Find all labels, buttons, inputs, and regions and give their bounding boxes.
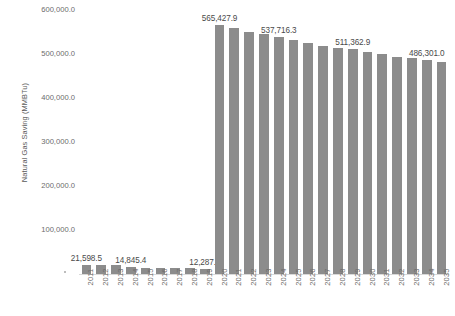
x-slot: 2020 (212, 276, 227, 316)
bar-slot (168, 10, 183, 274)
bar-slot (183, 10, 198, 274)
bar[interactable] (303, 43, 313, 274)
bar-slot (138, 10, 153, 274)
x-slot: 2012 (94, 276, 109, 316)
bar-slot (153, 10, 168, 274)
bar-series: 21,598.514,845.412,287.3565,427.9537,716… (79, 10, 449, 274)
x-slot: 2024 (271, 276, 286, 316)
x-slot: 2017 (168, 276, 183, 316)
x-slot: 2018 (183, 276, 198, 316)
bar-chart: Natural Gas Saving (MMBTu) 600,000.0500,… (0, 0, 455, 316)
bar[interactable] (318, 46, 328, 274)
bar[interactable] (259, 34, 269, 274)
x-slot: 2025 (286, 276, 301, 316)
bar-slot (257, 10, 272, 274)
bar[interactable] (348, 49, 358, 274)
y-tick-label: 600,000.0 (15, 6, 75, 14)
bar-slot (109, 10, 124, 274)
bar-slot (434, 10, 449, 274)
bar[interactable] (407, 58, 417, 274)
x-slot: 2023 (257, 276, 272, 316)
bar-slot: 12,287.3 (197, 10, 212, 274)
x-slot: 2019 (197, 276, 212, 316)
bar-slot (94, 10, 109, 274)
y-tick-label: 500,000.0 (15, 50, 75, 58)
y-tick-label: 300,000.0 (15, 138, 75, 146)
bar[interactable] (333, 48, 343, 274)
bar-slot: 14,845.4 (123, 10, 138, 274)
x-slot: 2015 (138, 276, 153, 316)
x-slot: 2028 (331, 276, 346, 316)
x-axis-tick-labels: 2011201220132014201520162017201820192020… (79, 276, 449, 316)
y-axis-tick-labels: 600,000.0500,000.0400,000.0300,000.0200,… (20, 0, 75, 316)
bar[interactable] (229, 28, 239, 274)
bar-slot: 21,598.5 (79, 10, 94, 274)
bar[interactable] (437, 62, 447, 274)
x-slot: 2031 (375, 276, 390, 316)
bar[interactable] (289, 40, 299, 274)
bar[interactable] (422, 60, 432, 274)
y-tick-label: 200,000.0 (15, 182, 75, 190)
bar-slot (301, 10, 316, 274)
y-tick-label: 400,000.0 (15, 94, 75, 102)
bar-slot (375, 10, 390, 274)
bar-slot: 486,301.0 (419, 10, 434, 274)
x-slot: 2026 (301, 276, 316, 316)
bar[interactable] (274, 37, 284, 274)
x-tick-label: 2035 (442, 268, 451, 286)
x-slot: 2022 (242, 276, 257, 316)
bar[interactable] (244, 32, 254, 274)
x-slot: 2021 (227, 276, 242, 316)
bar-slot (331, 10, 346, 274)
bar-slot (360, 10, 375, 274)
bar-slot (242, 10, 257, 274)
bar-slot (390, 10, 405, 274)
y-tick-label: 100,000.0 (15, 226, 75, 234)
x-slot: 2029 (345, 276, 360, 316)
bar-slot: 565,427.9 (212, 10, 227, 274)
x-slot: 2030 (360, 276, 375, 316)
bar[interactable] (363, 52, 373, 274)
x-slot: 2016 (153, 276, 168, 316)
x-slot: 2034 (419, 276, 434, 316)
bar[interactable] (392, 57, 402, 274)
x-slot: 2014 (123, 276, 138, 316)
x-slot: 2033 (405, 276, 420, 316)
plot-area: 21,598.514,845.412,287.3565,427.9537,716… (79, 10, 449, 274)
bar-slot: 537,716.3 (271, 10, 286, 274)
bar-slot (316, 10, 331, 274)
bar-slot: 511,362.9 (345, 10, 360, 274)
bar[interactable] (377, 54, 387, 274)
x-slot: 2027 (316, 276, 331, 316)
x-slot: 2011 (79, 276, 94, 316)
bar[interactable] (215, 25, 225, 274)
x-slot: 2013 (109, 276, 124, 316)
bar-slot (227, 10, 242, 274)
x-slot: 2032 (390, 276, 405, 316)
bar-slot (286, 10, 301, 274)
origin-marker (64, 271, 66, 273)
x-slot: 2035 (434, 276, 449, 316)
